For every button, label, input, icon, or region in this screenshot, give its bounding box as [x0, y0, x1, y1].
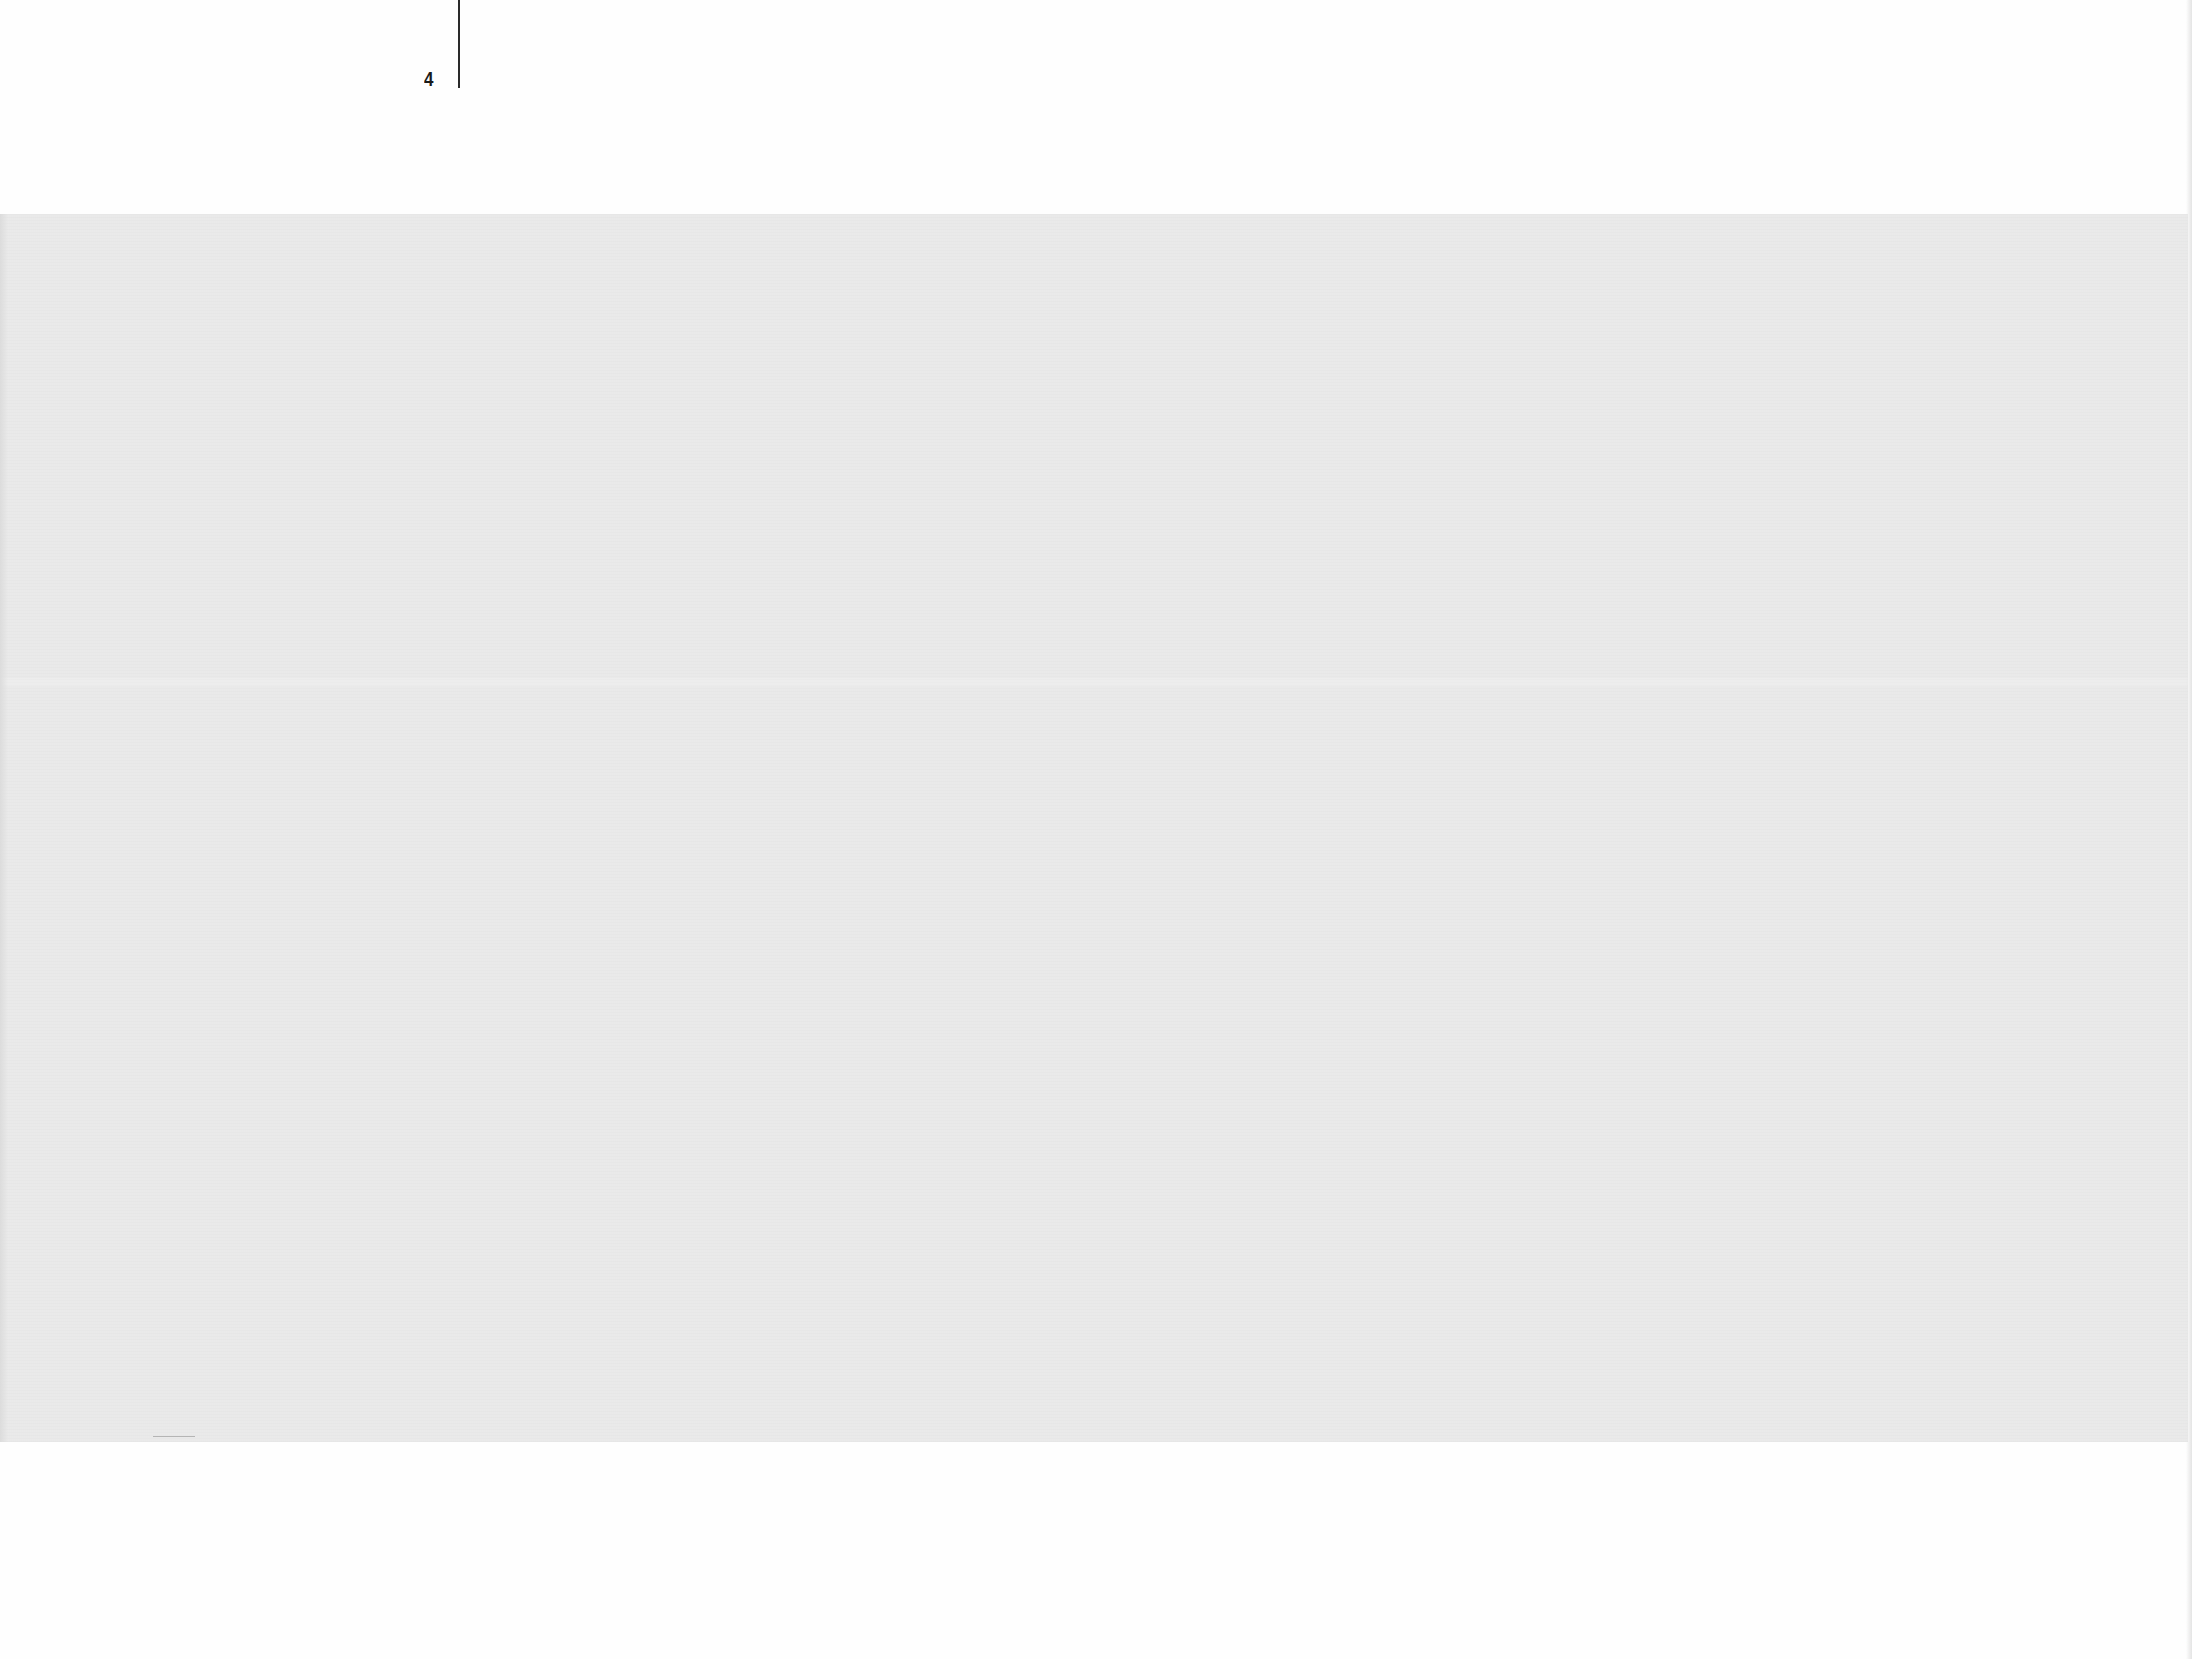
folio-rule	[458, 0, 460, 88]
scan-mark	[153, 1436, 195, 1437]
page-right-edge	[2186, 0, 2192, 1659]
scanned-page: 4	[0, 0, 2192, 1659]
plate-left-edge	[0, 214, 8, 1442]
page-number: 4	[424, 68, 433, 90]
scan-band	[0, 678, 2188, 686]
blank-plate	[0, 214, 2188, 1442]
